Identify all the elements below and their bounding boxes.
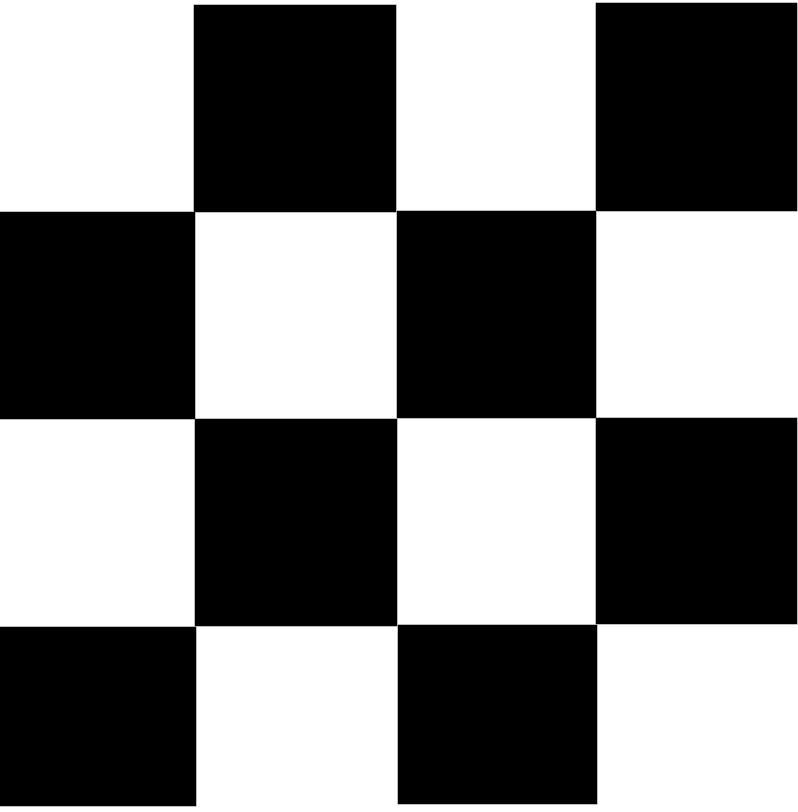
dark-square-r3-c0	[0, 627, 196, 806]
dark-square-r2-c3	[596, 418, 797, 624]
dark-square-r3-c2	[398, 625, 597, 804]
dark-square-r0-c3	[596, 3, 797, 211]
dark-square-r1-c2	[397, 211, 596, 418]
dark-square-r1-c0	[0, 212, 195, 419]
dark-square-r2-c1	[195, 419, 397, 626]
dark-square-r0-c1	[194, 5, 396, 212]
checkerboard	[0, 0, 798, 812]
